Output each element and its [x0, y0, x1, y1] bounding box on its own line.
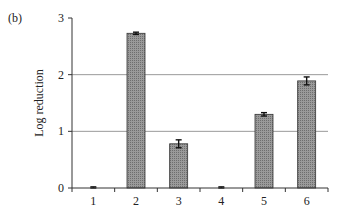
y-tick-label: 3 [58, 11, 64, 25]
y-tick-label: 0 [58, 181, 64, 195]
x-tick-label: 4 [218, 194, 224, 208]
bar [170, 144, 188, 188]
x-tick-label: 5 [261, 194, 267, 208]
y-tick-label: 1 [58, 124, 64, 138]
bar-chart: (b) Log reduction 1234560123 [0, 0, 347, 211]
bars [90, 32, 315, 188]
x-tick-label: 3 [176, 194, 182, 208]
bar [298, 81, 316, 188]
x-tick-label: 1 [90, 194, 96, 208]
y-axis-label: Log reduction [32, 69, 46, 137]
x-tick-label: 2 [133, 194, 139, 208]
bar [255, 114, 273, 188]
axes: 1234560123 [58, 11, 328, 208]
gridlines [72, 75, 328, 132]
x-tick-label: 6 [304, 194, 310, 208]
y-tick-label: 2 [58, 68, 64, 82]
bar [127, 33, 145, 188]
panel-label: (b) [8, 11, 22, 25]
